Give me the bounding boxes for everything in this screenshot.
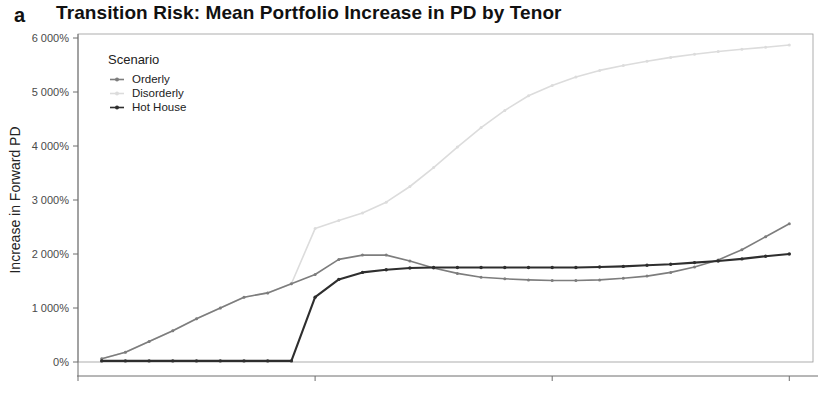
data-point	[788, 222, 791, 225]
y-axis-tick-label: 1 000%	[32, 302, 70, 314]
data-point	[124, 351, 127, 354]
data-point	[693, 266, 696, 269]
data-point	[219, 359, 222, 362]
legend-key-marker	[115, 78, 119, 82]
legend-key-marker	[115, 106, 119, 110]
data-point	[551, 266, 554, 269]
x-axis-tick-label: 20	[546, 384, 558, 386]
series-line	[102, 224, 790, 359]
data-point	[290, 282, 293, 285]
data-point	[527, 266, 530, 269]
data-point	[479, 266, 482, 269]
data-point	[195, 359, 198, 362]
x-axis-tick-label: 30	[783, 384, 795, 386]
data-point	[622, 64, 625, 67]
data-point	[171, 359, 174, 362]
data-point	[646, 60, 649, 63]
data-point	[693, 261, 696, 264]
data-point	[266, 359, 269, 362]
data-point	[385, 268, 388, 271]
y-axis-tick-label: 0%	[53, 356, 69, 368]
x-axis-tick-label: 0	[75, 384, 81, 386]
data-point	[527, 278, 530, 281]
data-point	[740, 257, 743, 260]
data-point	[574, 75, 577, 78]
data-point	[503, 266, 506, 269]
panel-label: a	[14, 4, 25, 27]
data-point	[527, 94, 530, 97]
data-point	[669, 271, 672, 274]
data-point	[669, 263, 672, 266]
data-point	[598, 265, 601, 268]
data-point	[456, 266, 459, 269]
data-point	[551, 84, 554, 87]
data-point	[314, 273, 317, 276]
data-point	[337, 278, 340, 281]
data-point	[622, 277, 625, 280]
line-chart-svg: 0%1 000%2 000%3 000%4 000%5 000%6 000%01…	[0, 26, 818, 386]
data-point	[243, 296, 246, 299]
data-point	[740, 248, 743, 251]
data-point	[764, 235, 767, 238]
x-axis-tick-label: 10	[309, 384, 321, 386]
data-point	[480, 276, 483, 279]
data-point	[693, 53, 696, 56]
data-point	[171, 329, 174, 332]
series-orderly	[100, 222, 791, 360]
data-point	[598, 69, 601, 72]
data-point	[622, 265, 625, 268]
data-point	[124, 359, 127, 362]
data-point	[503, 277, 506, 280]
data-point	[385, 254, 388, 257]
data-point	[100, 359, 103, 362]
y-axis-tick-label: 4 000%	[32, 140, 70, 152]
data-point	[456, 146, 459, 149]
data-point	[337, 258, 340, 261]
chart-title: Transition Risk: Mean Portfolio Increase…	[56, 2, 796, 24]
data-point	[717, 50, 720, 53]
data-point	[361, 212, 364, 215]
data-point	[408, 266, 411, 269]
data-point	[717, 259, 720, 262]
plot-frame	[78, 34, 813, 362]
data-point	[148, 340, 151, 343]
data-point	[456, 272, 459, 275]
legend-key-marker	[115, 92, 119, 96]
data-point	[645, 264, 648, 267]
y-axis-tick-label: 5 000%	[32, 86, 70, 98]
data-point	[290, 359, 293, 362]
data-point	[337, 219, 340, 222]
data-point	[361, 254, 364, 257]
data-point	[219, 307, 222, 310]
data-point	[385, 201, 388, 204]
data-point	[503, 109, 506, 112]
data-point	[740, 48, 743, 51]
data-point	[669, 56, 672, 59]
data-point	[788, 252, 791, 255]
y-axis-tick-label: 3 000%	[32, 194, 70, 206]
data-point	[646, 275, 649, 278]
data-point	[574, 279, 577, 282]
y-axis-tick-label: 2 000%	[32, 248, 70, 260]
data-point	[313, 296, 316, 299]
series-disorderly	[100, 44, 791, 361]
y-axis-title: Increase in Forward PD	[7, 126, 23, 273]
data-point	[764, 255, 767, 258]
legend-title: Scenario	[108, 52, 159, 67]
data-point	[764, 46, 767, 49]
data-point	[242, 359, 245, 362]
data-point	[147, 359, 150, 362]
data-point	[432, 166, 435, 169]
legend-item-label: Orderly	[132, 73, 170, 85]
data-point	[574, 266, 577, 269]
y-axis-tick-label: 6 000%	[32, 32, 70, 44]
data-point	[480, 126, 483, 129]
data-point	[551, 279, 554, 282]
legend-item-label: Hot House	[132, 101, 186, 113]
data-point	[432, 266, 435, 269]
series-line	[102, 45, 790, 359]
chart-plot-area: 0%1 000%2 000%3 000%4 000%5 000%6 000%01…	[0, 26, 818, 386]
data-point	[195, 317, 198, 320]
data-point	[361, 271, 364, 274]
legend-item-label: Disorderly	[132, 87, 184, 99]
